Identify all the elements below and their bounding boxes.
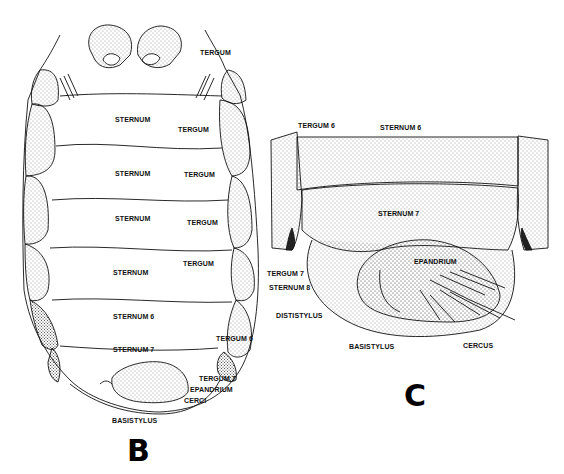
label-c-dististylus: DISTISTYLUS [276,312,323,319]
label-b-epandrium: EPANDRIUM [190,386,233,393]
label-b-sternum-6: STERNUM 6 [113,313,154,320]
label-b-sternum-2: STERNUM [115,170,150,177]
label-c-sternum-8: STERNUM 8 [269,284,310,291]
label-b-basistylus: BASISTYLUS [112,417,157,424]
label-b-tergum-6: TERGUM 6 [216,335,253,342]
label-b-sternum-1: STERNUM [115,116,150,123]
label-c-tergum-7: TERGUM 7 [267,270,304,277]
label-c-sternum-7: STERNUM 7 [378,210,419,217]
illustration [0,0,564,474]
label-c-sternum-6: STERNUM 6 [380,124,421,131]
panel-letter-b: B [127,433,150,468]
label-c-basistylus: BASISTYLUS [349,343,394,350]
panel-c-drawing [271,132,548,337]
label-b-tergum-4: TERGUM [183,260,214,267]
label-b-cerci: CERCI [184,397,206,404]
label-b-sternum-7: STERNUM 7 [113,346,154,353]
label-c-tergum-6: TERGUM 6 [298,122,335,129]
label-b-sternum-4: STERNUM [113,269,148,276]
label-b-tergum-top: TERGUM [200,49,231,56]
label-b-tergum-2: TERGUM [184,171,215,178]
label-b-sternum-3: STERNUM [115,215,150,222]
label-c-cercus: CERCUS [463,342,493,349]
label-c-epandrium: EPANDRIUM [414,258,457,265]
panel-letter-c: C [404,378,426,413]
label-b-tergum-3: TERGUM [187,219,218,226]
label-b-tergum-7: TERGUM 7 [199,375,236,382]
label-b-tergum-1: TERGUM [178,126,209,133]
